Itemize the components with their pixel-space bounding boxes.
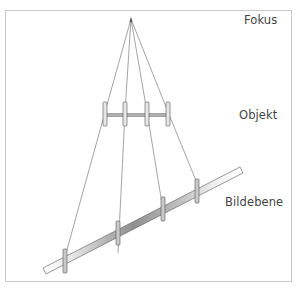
projection-diagram xyxy=(0,0,297,288)
image-plane-label: Bildebene xyxy=(225,195,283,209)
object-bar xyxy=(103,102,170,126)
object-label: Objekt xyxy=(239,108,277,122)
image-plane xyxy=(43,167,243,274)
focus-label: Fokus xyxy=(244,13,277,27)
projection-rays xyxy=(65,19,197,257)
